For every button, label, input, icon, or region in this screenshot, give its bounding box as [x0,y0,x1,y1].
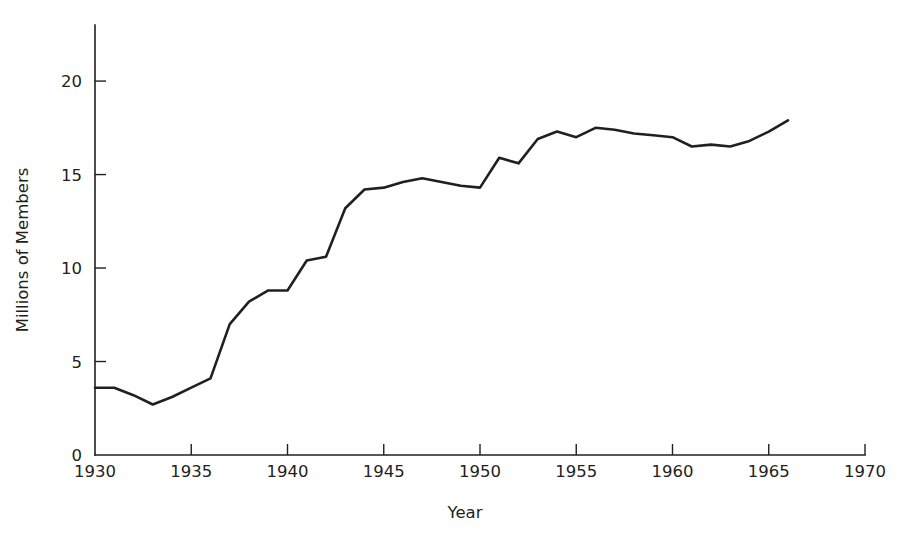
x-tick-label-1945: 1945 [363,462,405,481]
y-tick-label-15: 15 [61,166,82,185]
chart-background [0,0,904,542]
x-tick-label-1960: 1960 [652,462,694,481]
chart-container: 05101520 1930193519401945195019551960196… [0,0,904,542]
x-tick-label-1935: 1935 [170,462,212,481]
x-tick-label-1965: 1965 [748,462,790,481]
y-tick-label-10: 10 [61,259,82,278]
x-tick-label-1940: 1940 [267,462,309,481]
x-tick-label-1970: 1970 [844,462,886,481]
y-axis-title: Millions of Members [13,168,32,333]
y-tick-label-20: 20 [61,72,82,91]
line-chart-membership-by-year: 05101520 1930193519401945195019551960196… [0,0,904,542]
x-axis-title: Year [447,503,483,522]
x-tick-label-1955: 1955 [555,462,597,481]
x-tick-label-1930: 1930 [74,462,116,481]
x-axis-tick-labels: 193019351940194519501955196019651970 [74,462,886,481]
x-tick-label-1950: 1950 [459,462,501,481]
y-tick-label-5: 5 [72,353,83,372]
